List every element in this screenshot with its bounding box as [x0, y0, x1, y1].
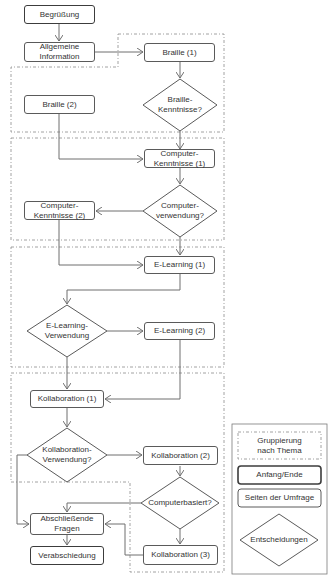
decision-label-line: E-Learning-	[46, 321, 88, 331]
decision-label-line: Braille-	[168, 95, 193, 105]
legend-label-line: nach Thema	[257, 446, 301, 456]
node-label-line: Abschließende	[41, 514, 94, 524]
legend-label-line: Gruppierung	[257, 436, 301, 446]
node-kollaboration-3: Kollaboration (3)	[143, 545, 218, 565]
legend-decisions-label: Entscheidungen	[240, 535, 318, 545]
legend-survey-pages-label: Seiten der Umfrage	[238, 489, 321, 507]
node-label-line: Kenntnisse (2)	[34, 211, 86, 221]
node-computer-kenntnisse-1: Computer- Kenntnisse (1)	[144, 149, 215, 168]
node-braille-2: Braille (2)	[24, 95, 95, 114]
node-label-line: Information	[39, 52, 79, 62]
node-allgemeine-information: Allgemeine Information	[24, 42, 95, 62]
node-abschliessende-fragen: Abschließende Fragen	[30, 513, 104, 535]
decision-label-line: Computer-	[161, 201, 199, 211]
node-label-line: Computer-	[161, 149, 199, 159]
decision-label-line: Kollaboration-	[42, 445, 91, 455]
node-elearning-1: E-Learning (1)	[144, 256, 215, 274]
label-kollaboration-verwendung: Kollaboration- Verwendung?	[27, 445, 107, 465]
label-computerverwendung: Computer- verwendung?	[143, 201, 217, 221]
legend-start-end-label: Anfang/Ende	[238, 466, 321, 484]
decision-label-line: Verwendung	[45, 331, 89, 341]
node-label-line: Kenntnisse (1)	[154, 159, 206, 169]
node-label-line: Fragen	[54, 524, 79, 534]
node-begruessung: Begrüßung	[24, 5, 95, 24]
node-kollaboration-2: Kollaboration (2)	[143, 446, 218, 465]
node-label-line: Computer-	[41, 201, 79, 211]
label-computerbasiert: Computerbasiert?	[141, 498, 219, 508]
label-braille-kenntnisse: Braille- Kenntnisse?	[143, 95, 217, 115]
decision-label-line: Kenntnisse?	[158, 105, 202, 115]
decision-label-line: Verwendung?	[43, 455, 92, 465]
node-kollaboration-1: Kollaboration (1)	[30, 390, 104, 408]
node-elearning-2: E-Learning (2)	[144, 322, 215, 340]
node-label-line: Allgemeine	[40, 42, 80, 52]
node-verabschiedung: Verabschiedung	[30, 546, 104, 565]
legend-grouping-label: Gruppierung nach Thema	[238, 432, 321, 459]
label-elearning-verwendung: E-Learning- Verwendung	[27, 321, 107, 341]
decision-label-line: verwendung?	[156, 211, 204, 221]
node-braille-1: Braille (1)	[144, 43, 215, 62]
node-computer-kenntnisse-2: Computer- Kenntnisse (2)	[24, 201, 95, 220]
